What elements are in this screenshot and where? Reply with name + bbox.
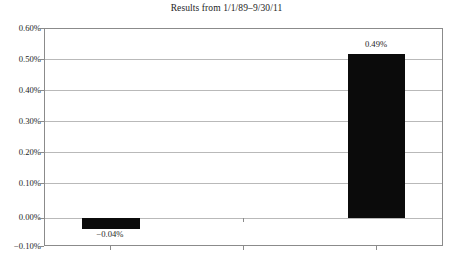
y-axis-label-6: 0.00%: [0, 213, 41, 222]
y-axis-label-1: 0.50%: [0, 55, 41, 64]
x-axis-label-1: [326, 251, 426, 260]
y-axis-label-5: 0.10%: [0, 179, 41, 188]
y-axis-label-2: 0.40%: [0, 86, 41, 95]
plot-area: [44, 28, 443, 246]
data-label-negative: −0.04%: [80, 229, 140, 239]
bar-positive[interactable]: [348, 54, 405, 218]
x-axis-tick-1: [376, 246, 377, 250]
y-axis-label-0: 0.60%: [0, 24, 41, 33]
chart-screenshot: Results from 1/1/89–9/30/11 0.60% 0.50% …: [0, 0, 453, 260]
y-axis-label-3: 0.30%: [0, 117, 41, 126]
bar-negative[interactable]: [82, 218, 140, 229]
x-axis-tick-0: [110, 246, 111, 250]
data-label-positive: 0.49%: [346, 39, 406, 49]
x-axis-label-0: [60, 251, 160, 260]
y-axis-tick-7: [38, 246, 44, 247]
y-axis-label-4: 0.20%: [0, 148, 41, 157]
x-axis-tick-center: [243, 246, 244, 250]
y-axis-label-7: −0.10%: [0, 242, 41, 251]
chart-title: Results from 1/1/89–9/30/11: [0, 2, 453, 14]
zero-line-tick: [243, 218, 244, 222]
